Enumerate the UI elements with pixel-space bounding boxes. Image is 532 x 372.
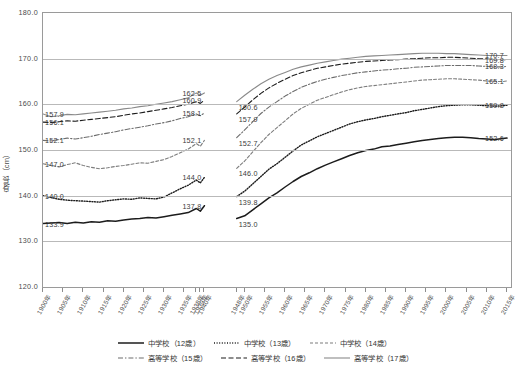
series-value-label: 152.7: [239, 139, 258, 148]
x-axis-tick-label: 1930年: [155, 293, 173, 316]
series-value-label: 147.0: [45, 160, 64, 169]
gridline: [43, 150, 511, 151]
x-axis-tick-label: 1970年: [317, 293, 335, 316]
series-value-label: 152.1: [182, 136, 201, 145]
series-value-label: 158.1: [182, 109, 201, 118]
x-axis-tick: [264, 288, 265, 292]
legend-swatch: [214, 339, 240, 347]
legend-label: 高等学校（17歳）: [354, 352, 413, 363]
x-axis-tick: [82, 288, 83, 292]
x-axis-tick-label: 1965年: [297, 293, 315, 316]
legend-item[interactable]: 高等学校（17歳）: [324, 352, 413, 363]
x-axis-tick-label: 2015年: [498, 293, 516, 316]
x-axis-tick: [345, 288, 346, 292]
x-axis-tick-label: 1955年: [256, 293, 274, 316]
x-axis-tick-label: 2000年: [438, 293, 456, 316]
y-axis-tick-label: 180.0: [2, 8, 38, 17]
x-axis-tick-label: 1960年: [276, 293, 294, 316]
x-axis-tick-label: 1900年: [34, 293, 52, 316]
series-line: [237, 53, 507, 101]
gridline: [43, 241, 511, 242]
series-value-label: 135.0: [239, 220, 258, 229]
x-axis-tick: [163, 288, 164, 292]
x-axis-tick-label: 1925年: [135, 293, 153, 316]
x-axis-tick: [385, 288, 386, 292]
x-axis-tick: [284, 288, 285, 292]
series-value-label: 160.9: [182, 96, 201, 105]
x-axis-tick: [486, 288, 487, 292]
x-axis-tick: [103, 288, 104, 292]
x-axis-tick: [466, 288, 467, 292]
legend-item[interactable]: 高等学校（16歳）: [221, 352, 310, 363]
x-axis-tick: [199, 288, 200, 292]
series-value-label: 140.0: [45, 192, 64, 201]
series-value-label: 168.3: [485, 62, 504, 71]
gridline: [43, 196, 511, 197]
x-axis-tick-labels: 1900年1905年1910年1915年1920年1925年1930年1935年…: [42, 293, 512, 337]
legend-item[interactable]: 中学校（12歳）: [118, 337, 200, 348]
plot-area: 157.9156.1152.1147.0140.0133.9162.5160.9…: [42, 12, 512, 288]
x-axis-tick: [324, 288, 325, 292]
x-axis-tick: [195, 288, 196, 292]
series-value-label: 157.9: [239, 115, 258, 124]
gridline: [43, 104, 511, 105]
series-value-label: 139.8: [239, 198, 258, 207]
x-axis-tick-label: 1985年: [377, 293, 395, 316]
series-value-label: 152.1: [45, 136, 64, 145]
x-axis-tick-label: 1980年: [357, 293, 375, 316]
series-value-label: 160.6: [239, 103, 258, 112]
x-axis-tick-label: 2005年: [458, 293, 476, 316]
legend-swatch: [324, 354, 350, 362]
x-axis-tick: [405, 288, 406, 292]
y-axis-tick-label: 150.0: [2, 145, 38, 154]
x-axis-tick-label: 2010年: [478, 293, 496, 316]
chart-legend: 中学校（12歳）中学校（13歳）中学校（14歳）高等学校（15歳）高等学校（16…: [118, 336, 518, 370]
x-axis-tick-label: 1905年: [55, 293, 73, 316]
series-value-label: 146.0: [239, 169, 258, 178]
legend-swatch: [310, 339, 336, 347]
series-line: [43, 177, 204, 202]
legend-item[interactable]: 高等学校（15歳）: [118, 352, 207, 363]
legend-swatch: [221, 354, 247, 362]
x-axis-tick-label: 1920年: [115, 293, 133, 316]
series-value-label: 144.0: [182, 173, 201, 182]
series-line: [43, 113, 204, 141]
x-axis-tick: [183, 288, 184, 292]
legend-item[interactable]: 中学校（13歳）: [214, 337, 296, 348]
x-axis-tick: [365, 288, 366, 292]
series-value-label: 133.9: [45, 220, 64, 229]
y-axis-tick-label: 120.0: [2, 282, 38, 291]
legend-swatch: [118, 339, 144, 347]
series-value-label: 156.1: [45, 118, 64, 127]
x-axis-tick: [42, 288, 43, 292]
x-axis-tick-label: 1995年: [418, 293, 436, 316]
y-axis-tick-label: 140.0: [2, 191, 38, 200]
x-axis-tick: [143, 288, 144, 292]
y-axis-tick-label: 160.0: [2, 99, 38, 108]
legend-swatch: [118, 354, 144, 362]
legend-item[interactable]: 中学校（14歳）: [310, 337, 392, 348]
legend-row: 高等学校（15歳）高等学校（16歳）高等学校（17歳）: [118, 351, 518, 364]
x-axis-tick: [123, 288, 124, 292]
x-axis-tick: [425, 288, 426, 292]
series-value-label: 159.8: [485, 101, 504, 110]
x-axis-tick: [304, 288, 305, 292]
gridline: [43, 59, 511, 60]
legend-label: 中学校（14歳）: [340, 337, 392, 348]
x-axis-tick: [244, 288, 245, 292]
x-axis-tick: [236, 288, 237, 292]
legend-row: 中学校（12歳）中学校（13歳）中学校（14歳）: [118, 336, 518, 349]
y-axis-tick-label: 130.0: [2, 236, 38, 245]
series-value-label: 137.8: [182, 202, 201, 211]
x-axis-tick-label: 1910年: [75, 293, 93, 316]
x-axis-tick: [203, 288, 204, 292]
x-axis-tick: [62, 288, 63, 292]
series-value-label: 152.6: [485, 134, 504, 143]
y-axis-tick-label: 170.0: [2, 54, 38, 63]
x-axis-tick-label: 1975年: [337, 293, 355, 316]
legend-label: 中学校（13歳）: [244, 337, 296, 348]
legend-label: 高等学校（16歳）: [251, 352, 310, 363]
x-axis-tick-label: 1915年: [95, 293, 113, 316]
series-line: [43, 206, 204, 224]
series-value-label: 165.1: [485, 77, 504, 86]
